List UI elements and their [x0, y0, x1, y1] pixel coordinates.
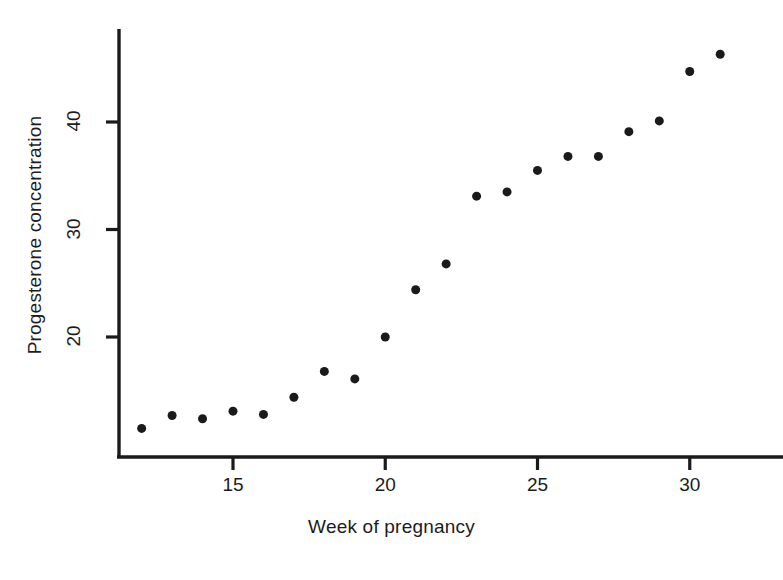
data-point [198, 414, 207, 423]
data-point-series [137, 50, 725, 433]
data-point [624, 127, 633, 136]
x-tick-label-30: 30 [660, 474, 720, 496]
data-point [685, 67, 694, 76]
data-point [472, 192, 481, 201]
y-tick-label-30: 30 [52, 218, 96, 240]
data-point [259, 410, 268, 419]
x-tick-label-15: 15 [203, 474, 263, 496]
data-point [594, 152, 603, 161]
x-tick-label-25: 25 [508, 474, 568, 496]
scatter-plot-figure: Progesterone concentration Week of pregn… [0, 0, 783, 580]
data-point [168, 411, 177, 420]
y-tick-label-20: 20 [52, 325, 96, 347]
data-point [289, 393, 298, 402]
axis-lines [117, 29, 783, 457]
data-point [411, 285, 420, 294]
y-tick-label-40: 40 [52, 110, 96, 132]
data-point [503, 187, 512, 196]
y-axis-title: Progesterone concentration [24, 116, 46, 355]
data-point [350, 374, 359, 383]
data-point [137, 424, 146, 433]
data-point [563, 152, 572, 161]
data-point [320, 367, 329, 376]
y-axis-tick-marks [106, 122, 119, 337]
x-axis-tick-marks [233, 457, 690, 470]
data-point [442, 259, 451, 268]
data-point [533, 166, 542, 175]
data-point [381, 333, 390, 342]
y-axis-title-container: Progesterone concentration [18, 0, 52, 470]
data-point [229, 407, 238, 416]
data-point [716, 50, 725, 59]
x-axis-title: Week of pregnancy [0, 516, 783, 538]
x-tick-label-20: 20 [355, 474, 415, 496]
data-point [655, 116, 664, 125]
